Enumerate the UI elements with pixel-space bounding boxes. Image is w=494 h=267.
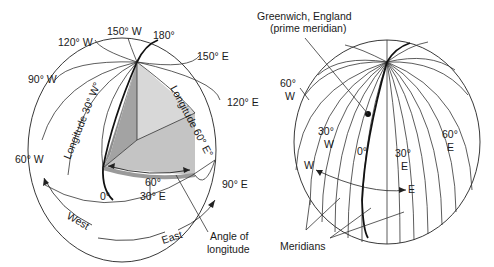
label-30e-dir: E <box>401 160 408 172</box>
label-longitude: longitude <box>207 243 250 255</box>
label-angle-of: Angle of <box>210 230 249 242</box>
label-90w: 90° W <box>28 73 57 85</box>
label-60w: 60° W <box>15 153 44 165</box>
label-150w: 150° W <box>107 25 142 37</box>
label-angle-60: 60° <box>145 176 161 188</box>
label-60w-num: 60° <box>280 77 296 89</box>
right-globe: Greenwich, England (prime meridian) 60° … <box>257 10 480 252</box>
label-e: E <box>408 183 415 195</box>
label-30e: 30° E <box>140 190 166 202</box>
label-w: W <box>304 159 314 171</box>
longitude-diagram: 150° W 180° 120° W 150° E 90° W 120° E 6… <box>0 0 494 267</box>
label-meridians: Meridians <box>280 240 326 252</box>
label-60e-dir: E <box>447 141 454 153</box>
label-30e-num: 30° <box>395 147 411 159</box>
label-120e: 120° E <box>227 96 259 108</box>
label-30w-dir: W <box>324 138 334 150</box>
label-0: 0° <box>357 145 367 157</box>
label-0: 0° <box>100 190 110 202</box>
left-globe: 150° W 180° 120° W 150° E 90° W 120° E 6… <box>15 25 259 262</box>
label-180: 180° <box>153 29 175 41</box>
label-60w-dir: W <box>285 90 295 102</box>
label-150e: 150° E <box>197 50 229 62</box>
label-prime-meridian: (prime meridian) <box>270 22 346 34</box>
label-60e-num: 60° <box>442 128 458 140</box>
label-90e: 90° E <box>222 178 248 190</box>
label-greenwich: Greenwich, England <box>257 10 352 22</box>
label-30w-num: 30° <box>318 125 334 137</box>
label-120w: 120° W <box>58 36 93 48</box>
